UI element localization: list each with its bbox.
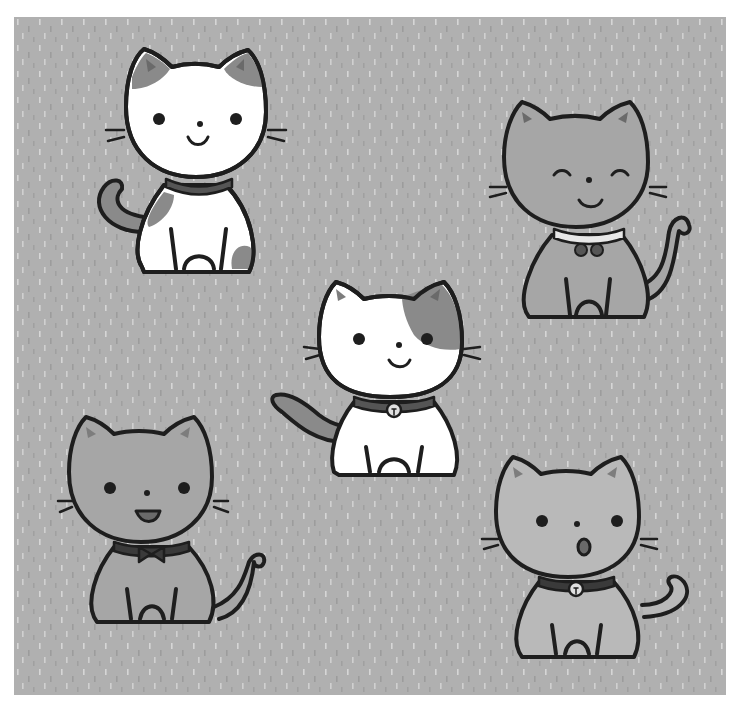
illustration-canvas xyxy=(14,17,726,695)
kittens-illustration xyxy=(14,17,726,695)
